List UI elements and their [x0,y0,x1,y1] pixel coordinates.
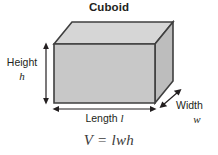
length-label-text: Length [85,112,117,124]
figure-title: Cuboid [0,1,218,13]
width-variable: w [176,114,218,126]
cuboid-figure: Cuboid Height h Length l Width w V = lwh [0,0,218,155]
height-variable: h [0,71,44,83]
height-label: Height [0,57,44,68]
cuboid-top-face [54,22,173,44]
cuboid-front-face [54,44,155,103]
volume-formula: V = lwh [0,133,218,149]
width-label: Width [176,100,218,111]
length-label: Length l [54,113,155,125]
length-variable: l [120,112,123,124]
